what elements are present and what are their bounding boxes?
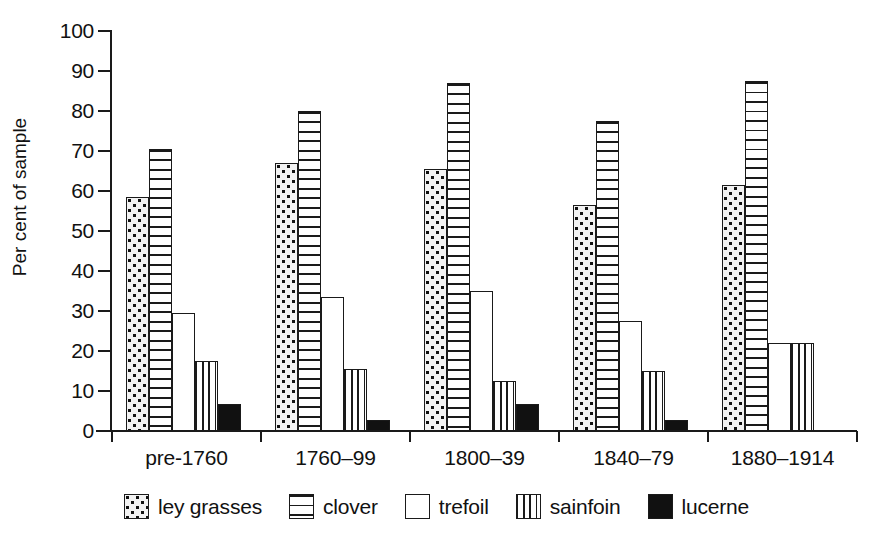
x-axis-label-1840-79: 1840–79 xyxy=(559,446,708,470)
legend-label: trefoil xyxy=(439,496,489,517)
y-tick-label: 0 xyxy=(48,420,94,441)
x-axis-label-1760-99: 1760–99 xyxy=(261,446,410,470)
checkerboard-dots-swatch xyxy=(124,494,149,519)
bar-trefoil-1880-1914 xyxy=(768,343,791,431)
y-tick-label: 40 xyxy=(48,260,94,281)
bar-ley-grasses-1760-99 xyxy=(275,163,298,431)
y-tick-label: 80 xyxy=(48,100,94,121)
bar-lucerne-1760-99 xyxy=(367,420,390,431)
bar-ley-grasses-1800-39 xyxy=(424,169,447,431)
y-tick-mark xyxy=(98,70,110,72)
x-tick-mark xyxy=(558,431,560,442)
horizontal-lines-swatch xyxy=(289,494,314,519)
y-tick-mark xyxy=(98,150,110,152)
y-axis-title: Per cent of sample xyxy=(9,32,31,362)
y-tick-mark xyxy=(98,110,110,112)
legend-item-sainfoin[interactable]: sainfoin xyxy=(516,494,621,519)
bar-ley-grasses-pre-1760 xyxy=(126,197,149,431)
legend-item-clover[interactable]: clover xyxy=(289,494,378,519)
bar-clover-1840-79 xyxy=(596,121,619,431)
bar-trefoil-1800-39 xyxy=(470,291,493,431)
plot-area xyxy=(112,31,857,431)
legend-label: lucerne xyxy=(682,496,749,517)
legend-label: clover xyxy=(323,496,378,517)
chart-legend: ley grassesclovertrefoilsainfoinlucerne xyxy=(0,494,873,519)
x-axis-label-1880-1914: 1880–1914 xyxy=(708,446,857,470)
bar-ley-grasses-1840-79 xyxy=(573,205,596,431)
y-tick-label: 100 xyxy=(48,20,94,41)
bar-clover-pre-1760 xyxy=(149,149,172,431)
legend-label: ley grasses xyxy=(158,496,262,517)
bar-ley-grasses-1880-1914 xyxy=(722,185,745,431)
x-tick-mark xyxy=(111,431,113,442)
bar-sainfoin-1840-79 xyxy=(642,371,665,431)
y-tick-mark xyxy=(98,30,110,32)
bar-clover-1800-39 xyxy=(447,83,470,431)
y-tick-mark xyxy=(98,350,110,352)
legend-label: sainfoin xyxy=(550,496,621,517)
bar-clover-1880-1914 xyxy=(745,81,768,431)
x-tick-mark xyxy=(409,431,411,442)
legend-item-ley-grasses[interactable]: ley grasses xyxy=(124,494,262,519)
solid-white-swatch xyxy=(405,494,430,519)
bar-sainfoin-1760-99 xyxy=(344,369,367,431)
y-tick-label: 70 xyxy=(48,140,94,161)
bar-trefoil-1760-99 xyxy=(321,297,344,431)
bar-sainfoin-pre-1760 xyxy=(195,361,218,431)
x-axis-label-1800-39: 1800–39 xyxy=(410,446,559,470)
legend-item-trefoil[interactable]: trefoil xyxy=(405,494,489,519)
bar-sainfoin-1880-1914 xyxy=(791,343,814,431)
x-tick-mark xyxy=(707,431,709,442)
y-tick-mark xyxy=(98,310,110,312)
legend-item-lucerne[interactable]: lucerne xyxy=(648,494,749,519)
bar-chart: Per cent of sample 010203040506070809010… xyxy=(0,0,873,552)
bar-lucerne-1800-39 xyxy=(516,404,539,431)
bar-sainfoin-1800-39 xyxy=(493,381,516,431)
solid-black-swatch xyxy=(648,494,673,519)
bar-lucerne-1840-79 xyxy=(665,420,688,431)
bar-lucerne-pre-1760 xyxy=(218,404,241,431)
y-tick-label: 20 xyxy=(48,340,94,361)
x-axis-label-pre-1760: pre-1760 xyxy=(112,446,261,470)
bar-trefoil-pre-1760 xyxy=(172,313,195,431)
y-tick-label: 50 xyxy=(48,220,94,241)
bar-trefoil-1840-79 xyxy=(619,321,642,431)
y-tick-label: 90 xyxy=(48,60,94,81)
y-tick-label: 30 xyxy=(48,300,94,321)
y-tick-label: 10 xyxy=(48,380,94,401)
y-tick-mark xyxy=(98,230,110,232)
bar-clover-1760-99 xyxy=(298,111,321,431)
y-tick-mark xyxy=(98,270,110,272)
vertical-lines-swatch xyxy=(516,494,541,519)
x-tick-mark xyxy=(260,431,262,442)
x-tick-mark xyxy=(856,431,858,442)
y-tick-mark xyxy=(98,190,110,192)
y-tick-label: 60 xyxy=(48,180,94,201)
y-tick-mark xyxy=(98,390,110,392)
